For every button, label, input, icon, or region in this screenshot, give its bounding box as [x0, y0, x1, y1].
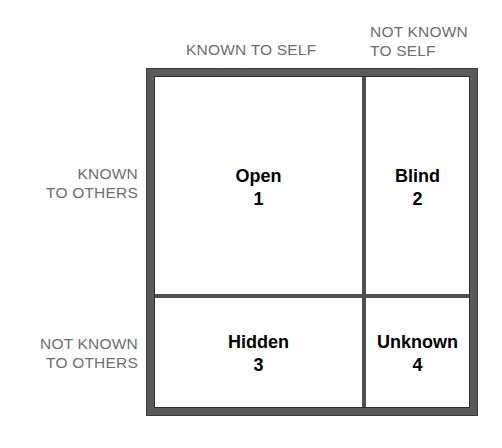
pane-unknown-body: Unknown 4 — [377, 331, 458, 377]
pane-hidden-title: Hidden — [228, 331, 289, 354]
pane-hidden-number: 3 — [228, 354, 289, 377]
pane-unknown: Unknown 4 — [364, 296, 469, 407]
johari-window-diagram: KNOWN TO SELF NOT KNOWN TO SELF KNOWN TO… — [0, 0, 502, 448]
pane-hidden-body: Hidden 3 — [228, 331, 289, 377]
pane-blind: Blind 2 — [364, 77, 469, 296]
pane-unknown-number: 4 — [377, 354, 458, 377]
pane-blind-title: Blind — [395, 165, 440, 188]
axis-label-known-to-others: KNOWN TO OTHERS — [46, 164, 138, 202]
pane-open-number: 1 — [236, 188, 282, 211]
pane-open-title: Open — [236, 165, 282, 188]
axis-label-not-known-to-self: NOT KNOWN TO SELF — [370, 22, 468, 60]
axis-label-known-to-self: KNOWN TO SELF — [186, 40, 316, 59]
pane-blind-number: 2 — [395, 188, 440, 211]
axis-label-not-known-to-others: NOT KNOWN TO OTHERS — [40, 334, 138, 372]
pane-open: Open 1 — [155, 77, 364, 296]
pane-grid: Open 1 Blind 2 Hidden 3 Unknown — [154, 76, 470, 408]
pane-blind-body: Blind 2 — [395, 165, 440, 211]
pane-unknown-title: Unknown — [377, 331, 458, 354]
pane-hidden: Hidden 3 — [155, 296, 364, 407]
pane-open-body: Open 1 — [236, 165, 282, 211]
window-frame: Open 1 Blind 2 Hidden 3 Unknown — [146, 68, 478, 416]
